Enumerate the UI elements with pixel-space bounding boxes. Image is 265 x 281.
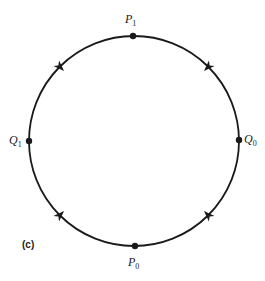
phase-circle-diagram (0, 0, 265, 281)
figure-caption: (c) (22, 239, 34, 250)
point-q0-dot (236, 137, 242, 143)
point-p0-dot (132, 243, 138, 249)
label-p0: P0 (128, 256, 139, 271)
point-p1-dot (130, 33, 136, 39)
label-p1: P1 (125, 13, 136, 28)
point-q1-dot (26, 138, 32, 144)
label-q0: Q0 (244, 133, 257, 148)
label-q1: Q1 (9, 134, 22, 149)
